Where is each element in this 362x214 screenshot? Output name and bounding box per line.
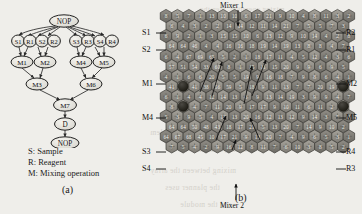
row-label-right: M5 bbox=[346, 113, 357, 122]
hex-cell-number: 4 bbox=[165, 74, 168, 80]
hex-cell-number: 7 bbox=[170, 144, 173, 150]
hex-cell[interactable]: 9 bbox=[212, 140, 223, 153]
hex-cell[interactable]: 6 bbox=[280, 140, 291, 153]
hex-cell-number: 41 bbox=[169, 84, 175, 90]
legend-item-reagent: R: Reagent bbox=[28, 157, 99, 168]
graph-node-label: R4 bbox=[108, 38, 116, 45]
hex-cell-number: 10 bbox=[232, 13, 238, 19]
hex-cell-number: 20 bbox=[243, 114, 249, 120]
hex-cell-number: 1 bbox=[199, 33, 202, 39]
hex-cell-number: 11 bbox=[318, 104, 323, 110]
graph-node-nop-root: NOP bbox=[50, 15, 79, 27]
hex-cell-number: 68 bbox=[186, 134, 192, 140]
hex-cell-number: 3 bbox=[336, 13, 339, 19]
panel-a: NOP S1 R1 S2 R2 bbox=[0, 0, 148, 214]
graph-node-r4: R4 bbox=[106, 35, 119, 47]
hex-cell-number: 4 bbox=[302, 13, 305, 19]
hex-cell-number: 3 bbox=[336, 54, 339, 60]
hex-cell-number: 50 bbox=[192, 124, 198, 130]
hex-cell-number: 45 bbox=[198, 134, 204, 140]
hex-cell-number: 14 bbox=[312, 33, 318, 39]
graph-node-label: S2 bbox=[39, 38, 46, 45]
hex-cell-number: 10 bbox=[209, 134, 215, 140]
hex-cell-number: 13 bbox=[295, 43, 301, 49]
hex-cell[interactable]: 4 bbox=[189, 140, 200, 153]
hex-cell-number: 4 bbox=[290, 54, 293, 60]
row-label-left: S3 bbox=[142, 147, 150, 156]
hex-cell-number: 11 bbox=[295, 104, 300, 110]
hex-cell-number: 11 bbox=[215, 104, 220, 110]
droplet-marker[interactable] bbox=[178, 101, 189, 112]
hex-cell-number: 10 bbox=[329, 124, 335, 130]
hex-cell-number: 12 bbox=[278, 33, 284, 39]
hex-cell-number: 7 bbox=[308, 84, 311, 90]
hex-cell-number: 48 bbox=[203, 124, 209, 130]
hex-cell-number: 14 bbox=[272, 23, 278, 29]
hex-cell-number: 19 bbox=[261, 43, 267, 49]
row-label-right: M2 bbox=[346, 79, 357, 88]
hex-cell-number: 59 bbox=[226, 84, 232, 90]
hex-cell-number: 6 bbox=[170, 23, 173, 29]
hex-cell-number: 15 bbox=[272, 64, 278, 70]
hex-cell[interactable]: 3 bbox=[303, 140, 314, 153]
hex-cell-number: 8 bbox=[319, 144, 322, 150]
hex-cell-number: 8 bbox=[165, 13, 168, 19]
hex-cell-number: 8 bbox=[308, 43, 311, 49]
hex-cell-number: 4 bbox=[216, 43, 219, 49]
hex-cell[interactable]: 5 bbox=[326, 140, 337, 153]
hex-cell-number: 12 bbox=[289, 114, 295, 120]
hex-cell-number: 13 bbox=[278, 114, 284, 120]
hex-cell-number: 4 bbox=[176, 54, 179, 60]
hex-cell-number: 12 bbox=[249, 23, 255, 29]
hex-cell-number: 9 bbox=[325, 94, 328, 100]
graph-node-label: M3 bbox=[32, 81, 42, 89]
legend-item-sample: S: Sample bbox=[28, 146, 99, 157]
hex-cell-number: 6 bbox=[256, 33, 259, 39]
hex-cell-number: 4 bbox=[336, 94, 339, 100]
hex-cell[interactable]: 7 bbox=[166, 140, 177, 153]
hex-cell-number: 10 bbox=[289, 13, 295, 19]
hex-cell-number: 9 bbox=[296, 64, 299, 70]
hex-cell[interactable]: 5 bbox=[177, 140, 188, 153]
hex-cell-number: 4 bbox=[193, 104, 196, 110]
hex-cell-number: 8 bbox=[319, 43, 322, 49]
hex-cell-number: 64 bbox=[169, 43, 175, 49]
hex-cell-number: 2 bbox=[188, 33, 191, 39]
hex-cell-number: 2 bbox=[216, 23, 219, 29]
hex-cell-number: 8 bbox=[313, 74, 316, 80]
hex-cell-number: 3 bbox=[210, 33, 213, 39]
hex-cell[interactable]: 7 bbox=[269, 140, 280, 153]
hex-cell-number: 6 bbox=[199, 74, 202, 80]
hex-cell-number: 2 bbox=[348, 13, 351, 19]
hex-cell-number: 5 bbox=[165, 114, 168, 120]
droplet-marker[interactable] bbox=[178, 81, 189, 92]
graph-node-d: D bbox=[55, 118, 76, 130]
graph-node-s1: S1 bbox=[12, 35, 25, 47]
hex-cell[interactable]: 10 bbox=[292, 140, 303, 153]
hex-cell-number: 2 bbox=[205, 23, 208, 29]
hex-cell[interactable]: 8 bbox=[246, 140, 257, 153]
hex-cell-number: 9 bbox=[302, 134, 305, 140]
hex-cell[interactable]: 16 bbox=[223, 140, 234, 153]
hex-cell-number: 1 bbox=[176, 74, 179, 80]
hex-cell[interactable]: 8 bbox=[315, 140, 326, 153]
droplet-marker[interactable] bbox=[338, 101, 349, 112]
hex-cell-number: 3 bbox=[325, 114, 328, 120]
hex-cell-number: 19 bbox=[289, 94, 295, 100]
hex-cell-number: 15 bbox=[221, 33, 227, 39]
hex-cell-number: 6 bbox=[313, 134, 316, 140]
hex-cell-number: 20 bbox=[226, 104, 232, 110]
hex-cell[interactable]: 11 bbox=[257, 140, 268, 153]
hex-cell-number: 20 bbox=[318, 84, 324, 90]
hex-cell[interactable]: 2 bbox=[200, 140, 211, 153]
hex-cell-number: 7 bbox=[273, 144, 276, 150]
hex-cell-number: 64 bbox=[181, 124, 187, 130]
hex-cell-number: 18 bbox=[226, 124, 232, 130]
hex-cell-number: 16 bbox=[226, 144, 232, 150]
hex-cell[interactable]: 12 bbox=[235, 140, 246, 153]
hex-cell-number: 19 bbox=[243, 74, 249, 80]
graph-node-label: M7 bbox=[60, 102, 70, 110]
hex-cell-number: 10 bbox=[283, 104, 289, 110]
sequencing-graph: NOP S1 R1 S2 R2 bbox=[0, 8, 148, 148]
hex-cell-number: 17 bbox=[261, 104, 267, 110]
